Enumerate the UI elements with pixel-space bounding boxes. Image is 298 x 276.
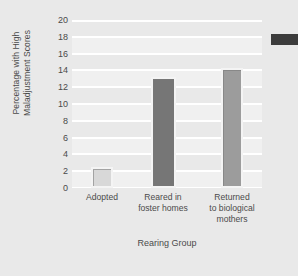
bar — [221, 68, 243, 188]
plot-area — [72, 20, 262, 188]
y-tick-label: 2 — [44, 166, 68, 176]
bar — [91, 167, 113, 188]
y-tick-label: 20 — [44, 15, 68, 25]
bar — [151, 77, 176, 188]
y-axis-title-line-1: Percentage with High — [11, 0, 22, 148]
bar-chart-figure: Percentage with High Maladjustment Score… — [0, 0, 298, 276]
y-axis-tick-labels: 02468101214161820 — [44, 14, 68, 194]
y-axis-title: Percentage with High Maladjustment Score… — [11, 0, 45, 148]
gridline — [72, 20, 262, 22]
y-tick-label: 16 — [44, 49, 68, 59]
gridline — [72, 53, 262, 55]
x-axis-tick-labels: AdoptedReared in foster homesReturned to… — [72, 192, 262, 234]
y-tick-label: 4 — [44, 149, 68, 159]
y-tick-label: 14 — [44, 65, 68, 75]
y-tick-label: 8 — [44, 116, 68, 126]
y-tick-label: 10 — [44, 99, 68, 109]
y-tick-label: 6 — [44, 133, 68, 143]
y-axis-title-line-2: Maladjustment Scores — [22, 0, 33, 148]
y-tick-label: 12 — [44, 82, 68, 92]
x-axis-title: Rearing Group — [72, 238, 262, 248]
scan-edge-artifact — [271, 34, 298, 45]
x-tick-label: Returned to biological mothers — [195, 192, 269, 225]
y-tick-label: 18 — [44, 32, 68, 42]
grid-band — [72, 37, 262, 54]
x-tick-label: Reared in foster homes — [126, 192, 200, 214]
gridline — [72, 36, 262, 38]
grid-band — [72, 20, 262, 37]
